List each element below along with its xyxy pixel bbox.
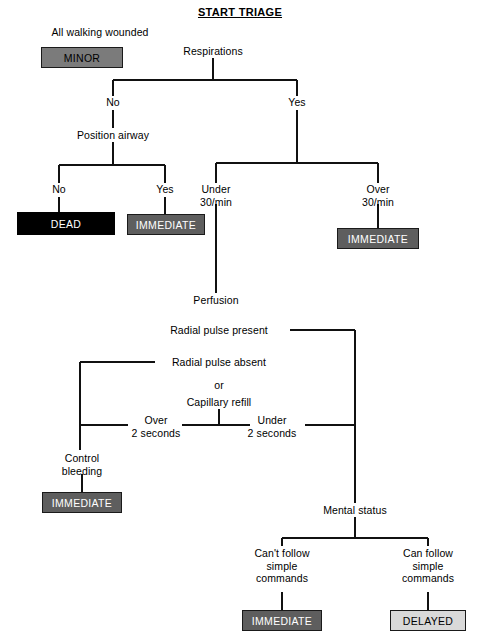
tag-immediate-mental-status: IMMEDIATE (242, 610, 322, 631)
node-control-bleeding: Control bleeding (62, 452, 103, 477)
node-radial-pulse-present: Radial pulse present (170, 324, 268, 337)
node-can-follow-simple-commands: Can follow simple commands (402, 547, 454, 585)
node-over-2-seconds: Over 2 seconds (132, 414, 181, 439)
node-position-airway: Position airway (77, 129, 149, 142)
tag-delayed: DELAYED (390, 610, 466, 631)
node-mental-status: Mental status (323, 504, 387, 517)
node-respirations-no: No (106, 96, 120, 109)
node-respirations-yes: Yes (288, 96, 305, 109)
tag-immediate-over-30: IMMEDIATE (337, 228, 419, 249)
node-or-connector-label: or (214, 379, 224, 392)
node-under-30-per-min: Under 30/min (200, 183, 232, 208)
node-under-2-seconds: Under 2 seconds (248, 414, 297, 439)
page-title: START TRIAGE (198, 6, 282, 18)
tag-immediate-control-bleeding: IMMEDIATE (42, 492, 122, 513)
node-respirations: Respirations (183, 45, 243, 58)
node-radial-pulse-absent: Radial pulse absent (172, 356, 266, 369)
tag-dead: DEAD (17, 212, 115, 235)
node-airway-no: No (52, 183, 66, 196)
triage-flowchart: START TRIAGE All walking wounded Respira… (0, 0, 479, 636)
tag-minor: MINOR (41, 47, 123, 68)
node-capillary-refill: Capillary refill (187, 396, 252, 409)
tag-immediate-airway: IMMEDIATE (127, 214, 205, 235)
node-airway-yes: Yes (156, 183, 173, 196)
node-all-walking-wounded: All walking wounded (51, 26, 148, 39)
node-over-30-per-min: Over 30/min (362, 183, 394, 208)
node-perfusion: Perfusion (193, 294, 238, 307)
node-cant-follow-simple-commands: Can't follow simple commands (254, 547, 309, 585)
flowchart-connectors (0, 0, 479, 636)
